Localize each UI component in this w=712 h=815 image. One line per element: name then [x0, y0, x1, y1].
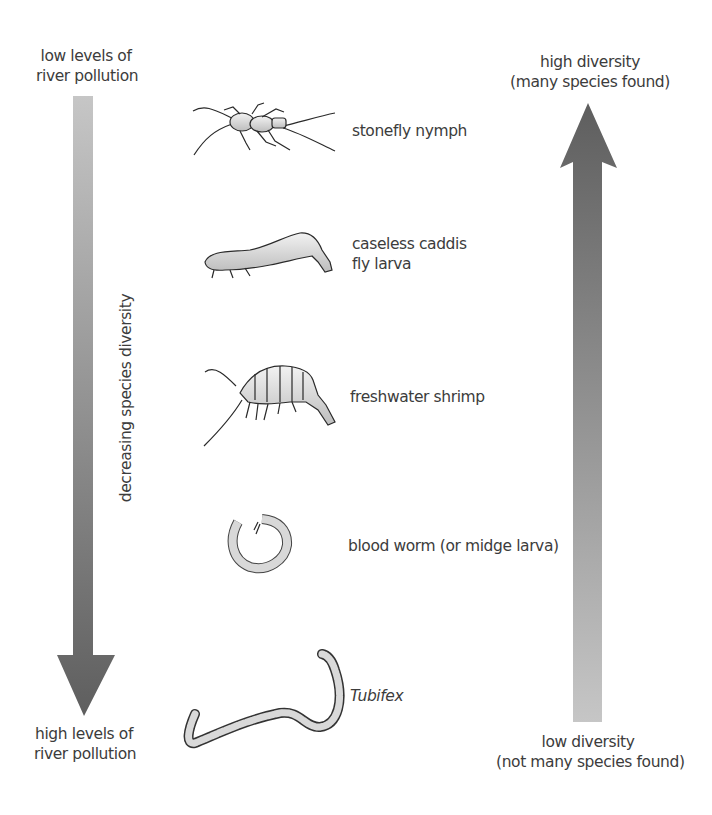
caddis-larva-illustration: [205, 233, 332, 278]
freshwater-shrimp-illustration: [204, 366, 335, 446]
high-diversity-label-line1: high diversity: [510, 52, 670, 72]
caddis-larva-label-line2: fly larva: [352, 254, 467, 274]
low-pollution-label: low levels of river pollution: [36, 46, 136, 86]
blood-worm-illustration: [233, 519, 287, 568]
high-diversity-label-line2: (many species found): [510, 72, 670, 92]
high-pollution-label-line1: high levels of: [34, 724, 134, 744]
freshwater-shrimp-label: freshwater shrimp: [350, 387, 485, 407]
diversity-arrow-up-icon: [560, 103, 617, 722]
stonefly-nymph-label: stonefly nymph: [352, 121, 467, 141]
pollution-arrow-down-icon: [57, 96, 115, 716]
high-pollution-label-line2: river pollution: [34, 744, 134, 764]
blood-worm-label: blood worm (or midge larva): [348, 536, 559, 556]
high-pollution-label: high levels of river pollution: [34, 724, 134, 764]
low-diversity-label-line1: low diversity: [496, 732, 680, 752]
high-diversity-label: high diversity (many species found): [510, 52, 670, 92]
low-pollution-label-line2: river pollution: [36, 66, 136, 86]
tubifex-worm-illustration: [189, 654, 340, 743]
low-pollution-label-line1: low levels of: [36, 46, 136, 66]
caddis-larva-label: caseless caddis fly larva: [352, 234, 467, 274]
decreasing-diversity-axis-label: decreasing species diversity: [117, 294, 135, 502]
tubifex-label: Tubifex: [350, 686, 403, 706]
low-diversity-label-line2: (not many species found): [496, 752, 680, 772]
stonefly-nymph-illustration: [193, 103, 335, 155]
caddis-larva-label-line1: caseless caddis: [352, 234, 467, 254]
low-diversity-label: low diversity (not many species found): [496, 732, 680, 772]
